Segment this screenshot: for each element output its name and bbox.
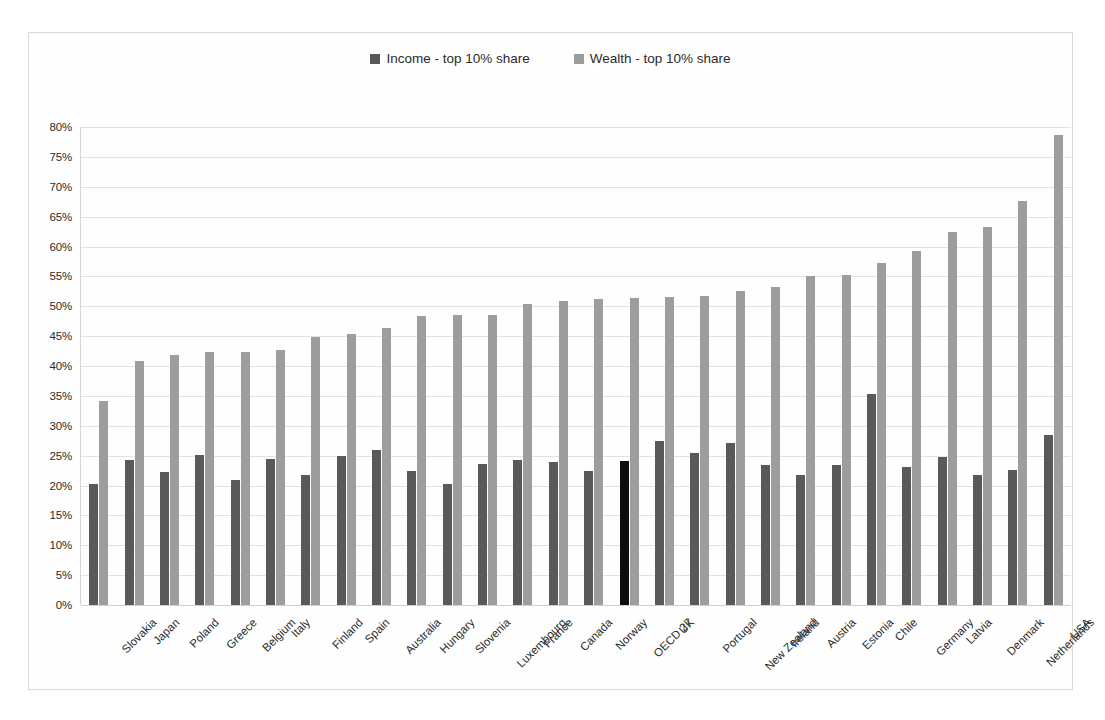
y-axis-tick-label: 75% (50, 151, 72, 163)
bar-group (930, 127, 965, 605)
bar-wealth (559, 301, 568, 605)
bar-income (973, 475, 982, 605)
y-axis-tick-label: 30% (50, 420, 72, 432)
bar-wealth (347, 334, 356, 605)
bar-wealth (594, 299, 603, 605)
bar-income (1008, 470, 1017, 605)
legend-swatch-income (370, 54, 380, 64)
bar-group (1036, 127, 1071, 605)
x-axis-tick-label: Denmark (1004, 616, 1045, 657)
bar-income (584, 471, 593, 605)
chart-frame: Income - top 10% share Wealth - top 10% … (28, 32, 1073, 690)
y-axis-tick-label: 45% (50, 330, 72, 342)
bar-wealth (241, 352, 250, 605)
bar-group (364, 127, 399, 605)
x-axis-tick-label: Canada (578, 616, 615, 653)
bar-income (513, 460, 522, 605)
bar-wealth (417, 316, 426, 605)
bar-group (258, 127, 293, 605)
bar-group (81, 127, 116, 605)
x-axis-tick-label: Norway (613, 616, 649, 652)
bar-income (160, 472, 169, 605)
y-axis-tick-label: 65% (50, 211, 72, 223)
bar-group (293, 127, 328, 605)
bar-group (187, 127, 222, 605)
bar-group (1000, 127, 1035, 605)
bar-income (938, 457, 947, 605)
x-axis-labels: SlovakiaJapanPolandGreeceBelgiumItalyFin… (81, 609, 1071, 719)
x-axis-tick-label: Slovenia (473, 616, 513, 656)
gridline: 0% (81, 605, 1071, 606)
y-axis-tick-label: 70% (50, 181, 72, 193)
y-axis-tick-label: 0% (56, 599, 72, 611)
bar-income (443, 484, 452, 605)
bar-group (505, 127, 540, 605)
y-axis-tick-label: 40% (50, 360, 72, 372)
bar-wealth (736, 291, 745, 605)
y-axis-tick-label: 50% (50, 300, 72, 312)
y-axis-tick-label: 10% (50, 539, 72, 551)
bar-group (753, 127, 788, 605)
y-axis-tick-label: 25% (50, 450, 72, 462)
bar-wealth (453, 315, 462, 605)
legend-item-income: Income - top 10% share (370, 51, 529, 66)
legend-label-income: Income - top 10% share (386, 51, 529, 66)
bar-income (761, 465, 770, 605)
bar-wealth (630, 298, 639, 605)
bar-income (867, 394, 876, 606)
y-axis-tick-label: 20% (50, 480, 72, 492)
bar-income (89, 484, 98, 605)
bar-group (859, 127, 894, 605)
x-axis-tick-label: Finland (330, 616, 365, 651)
bar-group (647, 127, 682, 605)
bar-group (717, 127, 752, 605)
x-axis-tick-label: Poland (188, 616, 222, 650)
bar-wealth (382, 328, 391, 605)
y-axis-tick-label: 15% (50, 509, 72, 521)
bar-income (372, 450, 381, 605)
bar-group (399, 127, 434, 605)
bar-wealth (276, 350, 285, 605)
bar-wealth (983, 227, 992, 605)
bar-wealth (311, 337, 320, 605)
bar-wealth (99, 401, 108, 605)
bar-wealth (665, 297, 674, 605)
bar-wealth (948, 232, 957, 605)
y-axis-tick-label: 35% (50, 390, 72, 402)
bar-income (266, 459, 275, 605)
bar-income (620, 461, 629, 605)
bar-income (407, 471, 416, 605)
bar-wealth (877, 263, 886, 605)
bar-group (116, 127, 151, 605)
bar-group (152, 127, 187, 605)
bar-income (301, 475, 310, 605)
bar-income (796, 475, 805, 605)
x-axis-tick-label: Portugal (720, 616, 759, 655)
bar-group (788, 127, 823, 605)
bar-group (329, 127, 364, 605)
bar-income (125, 460, 134, 605)
bar-income (902, 467, 911, 605)
bar-income (726, 443, 735, 605)
bar-group (541, 127, 576, 605)
bar-wealth (1054, 135, 1063, 605)
y-axis-tick-label: 60% (50, 241, 72, 253)
bar-wealth (806, 276, 815, 605)
plot-area: 80%75%70%65%60%55%50%45%40%35%30%25%20%1… (81, 127, 1071, 605)
bar-group (824, 127, 859, 605)
x-axis-tick-label: Spain (363, 616, 392, 645)
bar-group (894, 127, 929, 605)
x-axis-tick-label: Hungary (437, 616, 476, 655)
bar-group (222, 127, 257, 605)
bar-wealth (1018, 201, 1027, 605)
chart-legend: Income - top 10% share Wealth - top 10% … (29, 51, 1072, 66)
x-axis-tick-label: Estonia (860, 616, 896, 652)
bar-income (549, 462, 558, 605)
bar-wealth (771, 287, 780, 605)
bar-wealth (488, 315, 497, 605)
legend-item-wealth: Wealth - top 10% share (574, 51, 731, 66)
bar-group (965, 127, 1000, 605)
bar-group (611, 127, 646, 605)
bar-income (231, 480, 240, 605)
bar-group (682, 127, 717, 605)
